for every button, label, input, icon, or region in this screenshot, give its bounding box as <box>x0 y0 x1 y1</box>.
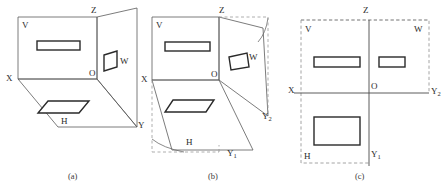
panel-a-top-view-parallelogram <box>38 101 89 113</box>
panel-c-label-h: H <box>304 152 311 161</box>
panel-b-label-y2-sub: 2 <box>269 115 272 122</box>
panel-a-label-w: W <box>120 57 129 66</box>
panel-c-label-y2-base: Y <box>431 86 438 96</box>
panel-b-label-z: Z <box>219 6 225 15</box>
panel-a-label-z: Z <box>91 6 97 15</box>
panel-b-label-h: H <box>186 138 193 147</box>
panel-b-label-w: W <box>249 53 258 62</box>
caption-panel-a: (a) <box>68 171 77 181</box>
panel-b-construction-lines <box>152 17 268 152</box>
panel-a-label-y: Y <box>138 121 145 130</box>
panel-b-shapes <box>165 42 249 112</box>
panel-c-label-y1-base: Y <box>371 149 378 159</box>
panel-c-label-y1: Y1 <box>371 150 381 159</box>
panel-c-label-y2: Y2 <box>431 87 441 96</box>
panel-c-label-x: X <box>288 86 295 95</box>
panel-a-label-h: H <box>61 117 68 126</box>
panel-b-label-x: X <box>141 75 148 84</box>
panel-b-label-y2-base: Y <box>262 111 269 121</box>
panel-c-label-v: V <box>305 25 312 34</box>
panel-c-label-w: W <box>414 25 423 34</box>
caption-panel-b: (b) <box>208 171 218 181</box>
panel-c-shapes <box>314 57 405 145</box>
panel-c-label-y2-sub: 2 <box>438 90 441 97</box>
panel-b-label-y1-base: Y <box>227 148 234 158</box>
figure-canvas: V H W O X Y Z V H W O X Z Y1 Y2 V H W O … <box>0 0 443 192</box>
panel-b-label-y1-sub: 1 <box>234 152 237 159</box>
panel-c-front-view-rect <box>314 57 360 67</box>
panel-a-label-x: X <box>6 74 13 83</box>
panel-b-label-o: O <box>211 70 218 79</box>
panel-a-label-o: O <box>89 69 96 78</box>
panel-b-label-y2: Y2 <box>262 112 272 121</box>
panel-a-side-view-parallelogram <box>104 51 117 71</box>
panel-a-front-view-rect <box>37 41 80 50</box>
panel-a-shapes <box>37 41 117 113</box>
panel-b-geometry <box>152 17 268 152</box>
panel-a-label-v: V <box>22 21 29 30</box>
caption-panel-c: (c) <box>355 171 364 181</box>
projection-diagram-svg <box>0 0 443 192</box>
panel-b-label-v: V <box>156 21 163 30</box>
panel-b-top-view-parallelogram <box>165 100 214 112</box>
panel-c-top-view-rect <box>314 117 360 145</box>
panel-b-front-view-rect <box>165 42 210 51</box>
panel-c-label-z: Z <box>363 6 369 15</box>
panel-c-label-y1-sub: 1 <box>378 153 381 160</box>
panel-c-label-o: O <box>371 82 378 91</box>
panel-b-label-y1: Y1 <box>227 149 237 158</box>
panel-b-side-view-parallelogram <box>229 53 249 70</box>
panel-c-side-view-rect <box>379 57 405 67</box>
panel-b-h-plane <box>152 80 253 150</box>
